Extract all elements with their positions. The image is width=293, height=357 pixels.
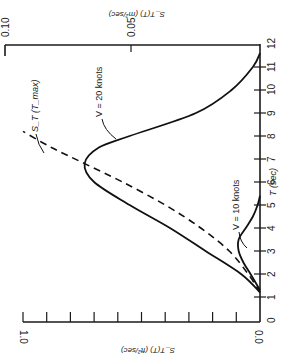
right-tick-label: 5 — [266, 202, 277, 208]
right-axis-title: T (sec) — [268, 168, 278, 196]
annotation-v20: V = 20 knots — [94, 66, 104, 117]
bottom-tick-label-00: 0.0 — [253, 330, 264, 344]
bottom-axis-title: S_T(T) (ft²/sec) — [120, 346, 175, 355]
right-tick-label: 2 — [266, 271, 277, 277]
right-tick-label: 8 — [266, 133, 277, 139]
right-tick-label: 10 — [266, 83, 277, 95]
right-tick-label: 12 — [266, 37, 277, 49]
chart-frame — [5, 44, 260, 322]
right-tick-label: 11 — [266, 61, 277, 72]
curve-v10 — [238, 196, 260, 290]
right-tick-label: 4 — [266, 225, 277, 231]
annotation-v10-leader — [239, 232, 247, 248]
top-tick-label-005: 0.05 — [126, 17, 137, 37]
right-tick-label: 7 — [266, 156, 277, 162]
bottom-tick-label-10: 1.0 — [18, 330, 29, 344]
top-tick-label-010: 0.10 — [0, 17, 11, 37]
right-tick-label: 9 — [266, 110, 277, 116]
annotation-v10: V = 10 knots — [231, 179, 241, 230]
top-axis-title: S_T(T) (m²/sec) — [108, 10, 165, 19]
right-tick-label: 0 — [266, 317, 277, 323]
right-tick-label: 1 — [266, 294, 277, 300]
curve-v20 — [84, 53, 260, 292]
annotation-v20-leader — [102, 119, 116, 139]
right-tick-label: 3 — [266, 248, 277, 254]
bottom-axis-ticks — [23, 312, 236, 322]
annotation-tmax: S_T (T_max) — [30, 79, 40, 132]
wave-spectrum-chart: 0123456789101112 0.10 0.05 S_T(T) (m²/se… — [0, 0, 293, 357]
